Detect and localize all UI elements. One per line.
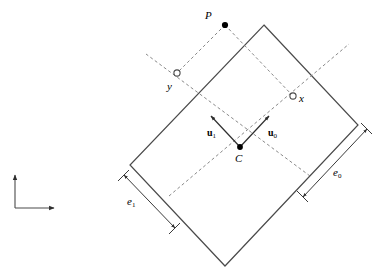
label-extent-e0: e0: [333, 167, 341, 178]
label-vector-u1-subscript: 1: [213, 132, 217, 140]
projection-marker-y: [174, 70, 180, 76]
obb-diagram: [0, 0, 384, 278]
label-extent-e1-subscript: 1: [132, 201, 136, 209]
label-point-p: P: [205, 10, 212, 21]
label-vector-u1-base: u: [207, 127, 213, 138]
projection-line-to-y: [177, 25, 225, 73]
dimension-e1-tick-end: [169, 223, 180, 234]
bounding-box: [130, 25, 358, 266]
label-vector-u0-base: u: [268, 127, 274, 138]
label-extent-e0-subscript: 0: [338, 172, 342, 180]
projection-marker-x: [290, 93, 296, 99]
projection-line-to-x: [225, 25, 293, 96]
world-axes: [15, 175, 54, 208]
dimension-e1-tick-start: [118, 170, 129, 181]
label-vector-u1: u1: [207, 128, 216, 138]
dimension-e0: [297, 123, 372, 202]
dimension-e0-tick-end: [361, 123, 372, 134]
dimension-e0-line: [303, 129, 367, 197]
center-point: [237, 144, 243, 150]
dimension-e0-tick-start: [297, 191, 308, 202]
local-axis-0-dashed: [169, 44, 349, 196]
label-vector-u0: u0: [268, 128, 277, 138]
label-vector-u0-subscript: 0: [274, 132, 278, 140]
label-extent-e1: e1: [127, 196, 135, 207]
label-axis-x: x: [299, 93, 304, 104]
label-axis-y: y: [167, 81, 172, 92]
local-axis-1-dashed: [146, 54, 310, 176]
label-center-c: C: [235, 153, 242, 164]
point-p: [222, 22, 228, 28]
